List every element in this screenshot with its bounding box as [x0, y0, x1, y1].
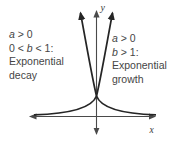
decay-label-line1: Exponential	[9, 55, 64, 69]
decay-condition-b: 0 < b < 1:	[9, 42, 64, 56]
x-axis-label: x	[149, 125, 155, 135]
decay-label-line2: decay	[9, 69, 64, 83]
growth-label-line2: growth	[112, 73, 167, 87]
y-axis-label: y	[100, 2, 106, 13]
decay-condition-a: a > 0	[9, 28, 64, 42]
growth-condition-b: b > 1:	[112, 46, 167, 60]
exponential-functions-figure: y x a > 0 0 < b < 1: Exponential decay a…	[0, 0, 186, 144]
decay-annotation: a > 0 0 < b < 1: Exponential decay	[9, 28, 64, 82]
growth-annotation: a > 0 b > 1: Exponential growth	[112, 32, 167, 86]
growth-label-line1: Exponential	[112, 59, 167, 73]
growth-condition-a: a > 0	[112, 32, 167, 46]
